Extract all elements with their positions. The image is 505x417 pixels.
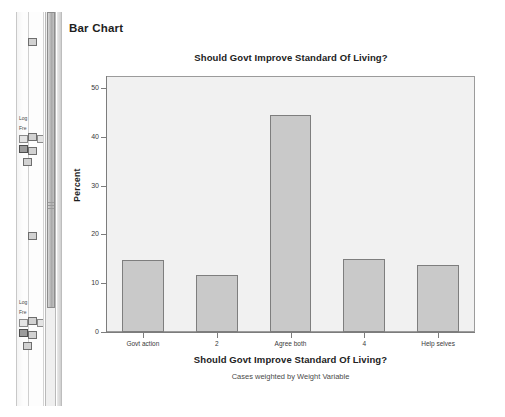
- bar-2[interactable]: [270, 115, 312, 332]
- title-node-icon-1[interactable]: [28, 147, 37, 155]
- scrollbar-tick: [48, 202, 54, 203]
- bar-chart-figure[interactable]: Should Govt Improve Standard Of Living? …: [64, 52, 500, 392]
- y-tick-label-0: 0: [71, 328, 99, 335]
- x-tick-label-1: 2: [215, 340, 219, 347]
- chart-node-icon-1[interactable]: [19, 145, 28, 153]
- x-axis-title: Should Govt Improve Standard Of Living?: [106, 354, 475, 365]
- scrollbar-thumb[interactable]: [47, 12, 55, 308]
- chart-title: Should Govt Improve Standard Of Living?: [106, 52, 476, 63]
- log-node-icon-1[interactable]: [19, 135, 28, 143]
- output-node-icon-2[interactable]: [28, 232, 37, 240]
- x-tick-label-2: Agree both: [275, 340, 307, 347]
- nav-tree-label-log-1[interactable]: Log: [19, 115, 27, 121]
- y-tick-30: [101, 186, 106, 187]
- output-document-area: Bar Chart Should Govt Improve Standard O…: [64, 0, 505, 417]
- scrollbar-tick: [48, 208, 54, 209]
- vertical-scrollbar[interactable]: [45, 12, 56, 406]
- chart-node-icon-2[interactable]: [19, 329, 28, 337]
- x-tick-4: [438, 333, 439, 338]
- output-heading-bar-chart: Bar Chart: [69, 22, 123, 34]
- bar-4[interactable]: [417, 265, 459, 332]
- x-tick-3: [364, 333, 365, 338]
- notes-node-icon-1[interactable]: [23, 158, 32, 166]
- chart-footnote: Cases weighted by Weight Variable: [106, 372, 475, 381]
- x-tick-0: [143, 333, 144, 338]
- scrollbar-tick: [48, 205, 54, 206]
- y-tick-40: [101, 137, 106, 138]
- y-tick-label-10: 10: [71, 279, 99, 286]
- nav-tree-label-fre-1[interactable]: Fre: [19, 125, 27, 131]
- table-node-icon-2[interactable]: [37, 319, 44, 327]
- output-navigator-pane[interactable]: Log Fre Log Fre: [16, 12, 44, 406]
- nav-tree-label-fre-2[interactable]: Fre: [19, 309, 27, 315]
- x-tick-label-0: Govt action: [126, 340, 159, 347]
- nav-tree-label-log-2[interactable]: Log: [19, 299, 27, 305]
- frequencies-node-icon-1[interactable]: [28, 133, 37, 141]
- y-tick-0: [101, 332, 106, 333]
- x-tick-2: [291, 333, 292, 338]
- log-node-icon-2[interactable]: [19, 319, 28, 327]
- table-node-icon-1[interactable]: [37, 135, 44, 143]
- y-tick-10: [101, 283, 106, 284]
- bar-3[interactable]: [343, 259, 385, 332]
- frequencies-node-icon-2[interactable]: [28, 317, 37, 325]
- title-node-icon-2[interactable]: [28, 331, 37, 339]
- y-tick-label-40: 40: [71, 133, 99, 140]
- x-tick-label-4: Help selves: [421, 340, 455, 347]
- y-tick-label-50: 50: [71, 84, 99, 91]
- x-tick-label-3: 4: [362, 340, 366, 347]
- output-node-icon[interactable]: [28, 38, 37, 46]
- output-navigator-strip: Log Fre Log Fre: [0, 0, 64, 417]
- bar-1[interactable]: [196, 275, 238, 332]
- x-tick-1: [217, 333, 218, 338]
- bar-0[interactable]: [122, 260, 164, 332]
- pane-splitter-handle[interactable]: [57, 12, 62, 406]
- y-tick-50: [101, 88, 106, 89]
- y-tick-20: [101, 234, 106, 235]
- y-axis-line: [106, 76, 107, 332]
- y-tick-label-30: 30: [71, 182, 99, 189]
- notes-node-icon-2[interactable]: [23, 342, 32, 350]
- y-tick-label-20: 20: [71, 230, 99, 237]
